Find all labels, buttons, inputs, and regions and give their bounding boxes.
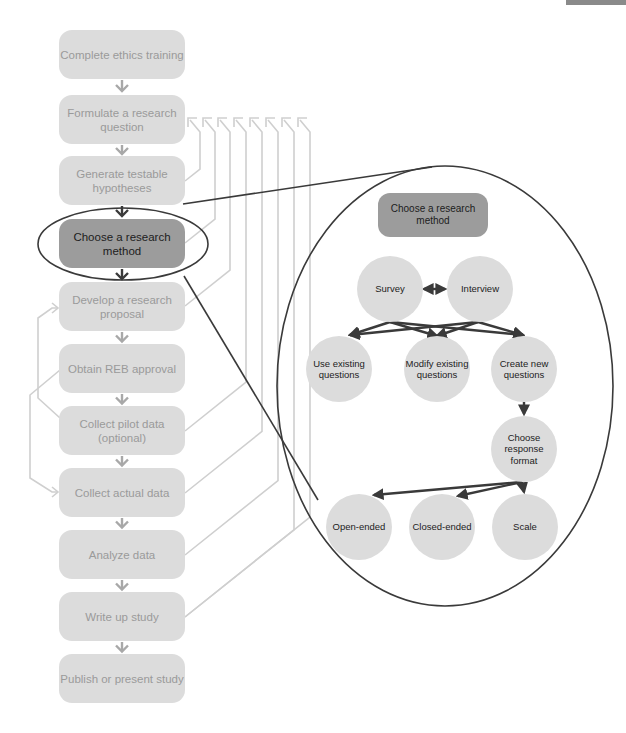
node-closed-ended: Closed-ended — [409, 494, 475, 560]
feedback-arrow — [185, 118, 310, 617]
down-arrow-icon — [116, 518, 128, 528]
down-arrow-icon — [116, 580, 128, 590]
step-complete-ethics-training: Complete ethics training — [59, 30, 185, 79]
step-obtain-reb-approval: Obtain REB approval — [59, 344, 185, 393]
down-arrow-icon — [116, 269, 128, 279]
step-analyze-data: Analyze data — [59, 530, 185, 579]
node-response-format: Choose response format — [491, 416, 557, 482]
down-arrow-icon — [116, 145, 128, 154]
detail-title-box: Choose a research method — [378, 193, 488, 237]
feedback-arrow — [185, 118, 262, 493]
node-scale: Scale — [492, 494, 558, 560]
step-collect-pilot-data: Collect pilot data (optional) — [59, 406, 185, 455]
node-use-existing: Use existing questions — [306, 336, 372, 402]
step-develop-proposal: Develop a research proposal — [59, 282, 185, 331]
node-survey: Survey — [357, 256, 423, 322]
node-interview: Interview — [447, 256, 513, 322]
feedback-arrow — [185, 118, 230, 306]
feedback-arrow — [185, 118, 200, 181]
step-formulate-research-question: Formulate a research question — [59, 95, 185, 144]
node-modify-existing: Modify existing questions — [404, 336, 470, 402]
step-choose-research-method: Choose a research method — [59, 219, 185, 268]
node-open-ended: Open-ended — [326, 494, 392, 560]
node-create-new: Create new questions — [491, 336, 557, 402]
down-arrow-icon — [116, 80, 128, 91]
zoom-line-bottom — [184, 276, 318, 500]
step-collect-actual-data: Collect actual data — [59, 468, 185, 517]
step-generate-hypotheses: Generate testable hypotheses — [59, 156, 185, 205]
format-arrow — [374, 482, 522, 495]
down-arrow-icon — [116, 642, 128, 652]
loop-pilot-to-proposal — [38, 308, 60, 418]
step-publish-present: Publish or present study — [59, 654, 185, 703]
down-arrow-icon — [116, 456, 128, 466]
loop-reb-to-actual — [30, 370, 60, 492]
format-arrow — [522, 482, 524, 492]
feedback-arrow — [185, 118, 278, 555]
down-arrow-icon — [116, 332, 128, 342]
down-arrow-icon — [116, 394, 128, 404]
step-write-up-study: Write up study — [59, 592, 185, 641]
